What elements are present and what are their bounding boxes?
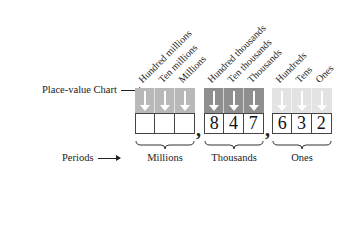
ones-band xyxy=(272,88,332,113)
periods-label: Periods xyxy=(62,152,120,163)
brace-icon xyxy=(272,140,332,150)
down-arrow-icon xyxy=(144,91,146,106)
digit-box xyxy=(155,114,174,133)
place-value-chart-label: Place-value Chart xyxy=(42,84,143,95)
period-label-ones: Ones xyxy=(262,152,342,163)
down-arrow-icon xyxy=(233,91,235,106)
millions-band xyxy=(135,88,195,113)
down-arrow-icon xyxy=(164,91,166,106)
down-arrow-icon xyxy=(253,91,255,106)
digit-box xyxy=(136,114,155,133)
down-arrow-icon xyxy=(301,91,303,106)
digit-box: 8 xyxy=(205,114,224,133)
period-label-millions: Millions xyxy=(125,152,205,163)
digit-box xyxy=(175,114,194,133)
down-arrow-icon xyxy=(321,91,323,106)
thousands-band xyxy=(204,88,264,113)
column-label-ones: Ones xyxy=(313,63,335,85)
digit-box: 7 xyxy=(244,114,263,133)
place-value-chart-text: Place-value Chart xyxy=(42,84,117,95)
band-cell xyxy=(244,88,264,113)
digit-box: 4 xyxy=(224,114,243,133)
thousands-group: 8 4 7 xyxy=(204,88,264,134)
comma-separator: , xyxy=(265,118,270,141)
band-cell xyxy=(135,88,155,113)
brace-icon xyxy=(204,140,264,150)
down-arrow-icon xyxy=(281,91,283,106)
down-arrow-icon xyxy=(213,91,215,106)
band-cell xyxy=(155,88,175,113)
arrow-right-icon xyxy=(98,158,120,159)
digit-box: 3 xyxy=(292,114,311,133)
millions-group xyxy=(135,88,195,134)
thousands-digits: 8 4 7 xyxy=(204,113,264,134)
band-cell xyxy=(204,88,224,113)
band-cell xyxy=(312,88,332,113)
digit-box: 2 xyxy=(312,114,331,133)
band-cell xyxy=(272,88,292,113)
band-cell xyxy=(224,88,244,113)
band-cell xyxy=(175,88,195,113)
band-cell xyxy=(292,88,312,113)
comma-separator: , xyxy=(196,118,201,141)
millions-digits xyxy=(135,113,195,134)
periods-text: Periods xyxy=(62,152,94,163)
down-arrow-icon xyxy=(184,91,186,106)
ones-group: 6 3 2 xyxy=(272,88,332,134)
digit-box: 6 xyxy=(273,114,292,133)
brace-icon xyxy=(135,140,195,150)
ones-digits: 6 3 2 xyxy=(272,113,332,134)
